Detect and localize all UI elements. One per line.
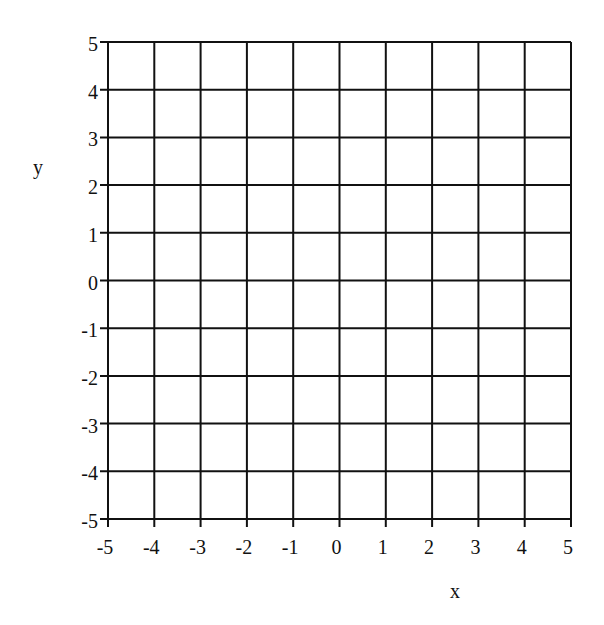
y-axis-label: y: [33, 156, 43, 179]
x-tick-label: 1: [378, 536, 388, 558]
y-tick-label: -3: [81, 415, 98, 437]
x-tick-label: 4: [517, 536, 527, 558]
x-tick-label: -3: [189, 536, 206, 558]
coordinate-grid-chart: -5-4-3-2-1012345 -5-4-3-2-1012345 x y: [0, 0, 604, 625]
x-tick-label: 0: [332, 536, 342, 558]
x-tick-label: 5: [563, 536, 573, 558]
y-tick-label: 0: [88, 272, 98, 294]
grid-lines: [100, 42, 571, 527]
y-tick-label: 4: [88, 81, 98, 103]
y-tick-label: 5: [88, 33, 98, 55]
x-tick-label: 2: [424, 536, 434, 558]
y-axis-ticks: -5-4-3-2-1012345: [81, 33, 98, 532]
y-tick-label: -4: [81, 462, 98, 484]
y-tick-label: -2: [81, 367, 98, 389]
y-tick-label: -5: [81, 510, 98, 532]
x-tick-label: 3: [470, 536, 480, 558]
y-tick-label: 2: [88, 176, 98, 198]
y-tick-label: 1: [88, 224, 98, 246]
x-tick-label: -5: [97, 536, 114, 558]
x-tick-label: -2: [236, 536, 253, 558]
y-tick-label: -1: [81, 319, 98, 341]
x-axis-label: x: [450, 580, 460, 602]
x-axis-ticks: -5-4-3-2-1012345: [97, 536, 573, 558]
y-tick-label: 3: [88, 128, 98, 150]
x-tick-label: -1: [282, 536, 299, 558]
x-tick-label: -4: [143, 536, 160, 558]
